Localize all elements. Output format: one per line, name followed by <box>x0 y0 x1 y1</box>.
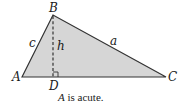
triangle-diagram: B A C D c a h A is acute. <box>0 0 182 104</box>
triangle-abc <box>22 15 166 77</box>
side-label-c: c <box>29 36 36 50</box>
altitude-label-h: h <box>57 39 65 53</box>
caption: A is acute. <box>57 91 104 103</box>
vertex-label-c: C <box>168 70 177 84</box>
vertex-label-a: A <box>11 70 21 84</box>
side-label-a: a <box>110 34 117 48</box>
caption-text: is acute. <box>65 91 104 103</box>
vertex-label-b: B <box>48 1 58 15</box>
